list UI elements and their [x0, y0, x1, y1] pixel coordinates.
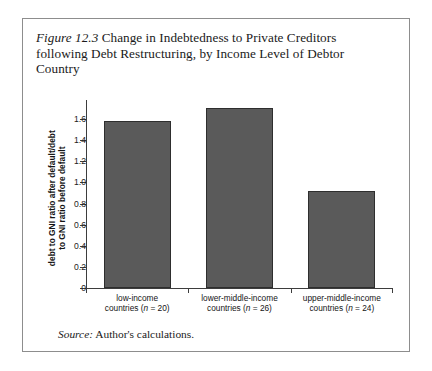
source-text: Author's calculations.: [93, 328, 194, 340]
figure-number: Figure 12.3: [36, 30, 98, 45]
source-note: Source: Author's calculations.: [58, 328, 194, 340]
figure-title: Figure 12.3 Change in Indebtedness to Pr…: [36, 30, 366, 77]
source-label: Source:: [58, 328, 93, 340]
